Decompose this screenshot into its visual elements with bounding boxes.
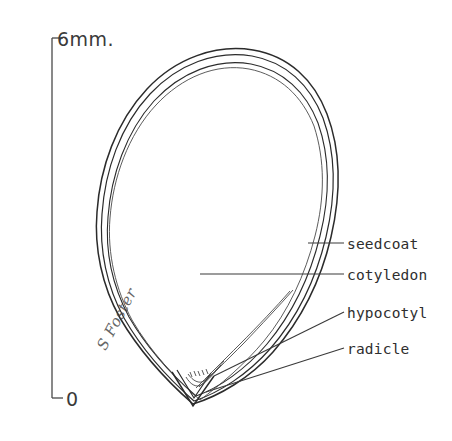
seed-diagram xyxy=(0,0,452,441)
scale-bar-top-label: 6mm. xyxy=(57,28,114,50)
label-seedcoat: seedcoat xyxy=(347,236,418,252)
radicle-body-edge xyxy=(188,361,224,382)
figure-page: seedcoat cotyledon hypocotyl radicle 6mm… xyxy=(0,0,452,441)
seedcoat-inner-contour xyxy=(101,55,333,401)
leader-hypocotyl xyxy=(214,312,344,376)
hypocotyl-hatching xyxy=(190,369,208,377)
label-cotyledon: cotyledon xyxy=(347,267,427,283)
seedcoat-outer-contour xyxy=(96,49,338,404)
label-hypocotyl: hypocotyl xyxy=(347,305,427,321)
embryo-tip-detail xyxy=(172,290,293,406)
hypocotyl-groove xyxy=(196,291,290,388)
scale-bar-bottom-label: 0 xyxy=(66,388,78,410)
label-radicle: radicle xyxy=(347,341,410,357)
cotyledon-contour xyxy=(107,63,327,396)
scale-bar xyxy=(52,38,63,398)
